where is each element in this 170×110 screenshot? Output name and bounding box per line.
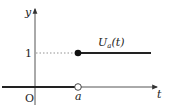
y-tick-label: 1 [25,47,32,60]
closed-endpoint [75,50,82,57]
function-label-arg: (t) [111,36,124,49]
y-axis-label: y [24,6,32,19]
origin-label: O [25,92,34,105]
function-label: Ua(t) [98,36,124,50]
x-tick-label: a [75,90,82,103]
step-function-diagram: y t O 1 a Ua(t) [0,0,170,110]
x-axis-label: t [157,88,162,101]
